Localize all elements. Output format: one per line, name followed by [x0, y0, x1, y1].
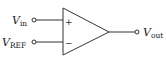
plus-sign: + [65, 17, 73, 27]
vin-terminal [32, 18, 36, 22]
vout-label: Vout [143, 26, 163, 40]
vref-label: VREF [2, 36, 26, 50]
output-vout: Vout [109, 26, 163, 40]
input-vin: Vin [12, 14, 63, 28]
comparator-diagram: Vin VREF + − Vout [0, 0, 167, 64]
vout-terminal [135, 30, 139, 34]
vref-terminal [32, 40, 36, 44]
vin-label: Vin [12, 14, 27, 28]
minus-sign: − [65, 38, 73, 48]
input-vref: VREF [2, 36, 63, 50]
